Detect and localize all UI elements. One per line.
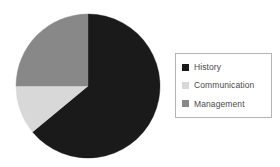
legend-item-management[interactable]: Management: [182, 97, 271, 111]
legend-label-management: Management: [194, 99, 245, 109]
legend-swatch-communication: [182, 82, 189, 89]
pie-slice-management[interactable]: [16, 14, 88, 86]
legend-swatch-history: [182, 64, 189, 71]
pie-chart-figure: History Communication Management: [0, 0, 280, 167]
legend-label-history: History: [194, 62, 221, 72]
pie-slice-group: [16, 14, 160, 158]
legend-item-communication[interactable]: Communication: [182, 78, 271, 92]
legend-item-history[interactable]: History: [182, 60, 271, 74]
legend-label-communication: Communication: [194, 80, 254, 90]
chart-legend: History Communication Management: [175, 53, 272, 118]
legend-swatch-management: [182, 100, 189, 107]
